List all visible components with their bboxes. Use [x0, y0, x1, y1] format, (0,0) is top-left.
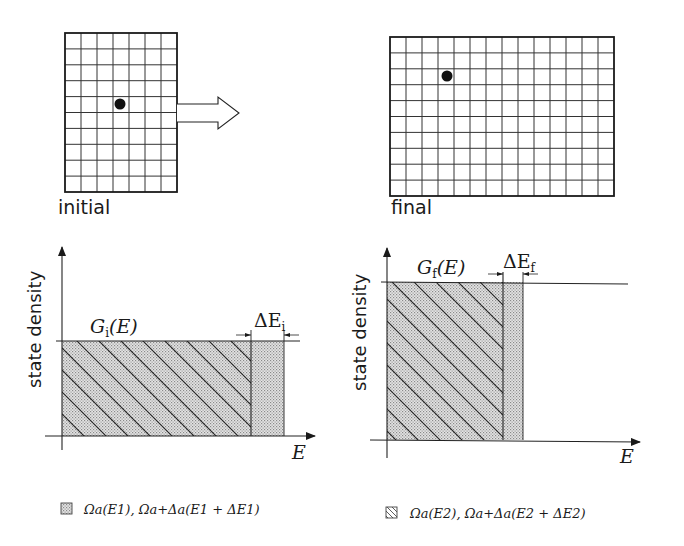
- right-x-axis: [370, 440, 640, 442]
- right-region-label: Gf(E): [417, 256, 465, 281]
- final-particle-dot: [442, 71, 453, 82]
- left-xlabel: E: [291, 441, 306, 463]
- initial-label: initial: [58, 196, 110, 218]
- initial-grid: [65, 33, 177, 192]
- left-state-density-chart: [45, 247, 315, 450]
- right-ylabel: state density: [349, 273, 370, 391]
- legend-dotted: Ωa(E1), Ωa+Δa(E1 + ΔE1): [61, 502, 259, 517]
- left-region-label: Gi(E): [90, 315, 138, 340]
- right-xlabel: E: [619, 445, 634, 467]
- left-delta-label: ΔEi: [254, 309, 286, 334]
- hollow-right-arrow-icon: [177, 97, 239, 129]
- final-label: final: [391, 196, 432, 218]
- left-ylabel: state density: [24, 270, 45, 388]
- legend-hatched-text: Ωa(E2), Ωa+Δa(E2 + ΔE2): [409, 506, 585, 521]
- diagram-canvas: initial final state density E Gi(E) ΔEi: [0, 0, 684, 546]
- dotted-swatch-icon: [61, 503, 72, 514]
- right-state-density-chart: [370, 248, 640, 458]
- hatched-swatch-icon: [386, 507, 397, 518]
- legend-dotted-text: Ωa(E1), Ωa+Δa(E1 + ΔE1): [83, 502, 259, 517]
- final-grid: [390, 37, 614, 196]
- initial-particle-dot: [115, 99, 126, 110]
- right-delta-label: ΔEf: [503, 250, 537, 275]
- legend-hatched: Ωa(E2), Ωa+Δa(E2 + ΔE2): [386, 506, 585, 521]
